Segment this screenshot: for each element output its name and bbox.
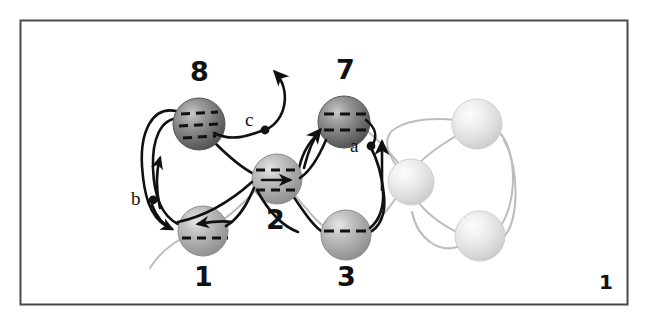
point-label-b: b bbox=[131, 189, 141, 208]
sphere-label-3: 3 bbox=[337, 263, 356, 290]
sphere-label-7: 7 bbox=[336, 56, 355, 83]
point-label-c: c bbox=[245, 110, 253, 129]
sphere-3 bbox=[321, 210, 371, 260]
dot-c bbox=[261, 126, 270, 135]
page-number: 1 bbox=[599, 272, 613, 292]
point-label-a: a bbox=[350, 136, 358, 155]
sphere-right-top bbox=[452, 99, 502, 149]
dot-a bbox=[367, 142, 376, 151]
sphere-label-1: 1 bbox=[194, 263, 213, 290]
sphere-label-8: 8 bbox=[190, 58, 209, 85]
knot-diagram-svg bbox=[0, 0, 649, 326]
sphere-label-2: 2 bbox=[266, 206, 285, 233]
sphere-right-mid bbox=[388, 159, 434, 205]
dot-b bbox=[149, 196, 158, 205]
figure-root: 8 7 2 1 3 a b c 1 bbox=[0, 0, 649, 326]
figure-frame bbox=[21, 21, 628, 305]
sphere-right-bottom bbox=[455, 211, 505, 261]
